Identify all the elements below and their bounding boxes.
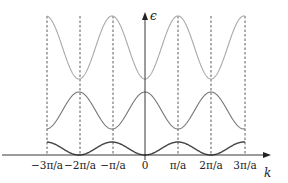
tick-label: −2π/a <box>64 159 96 171</box>
band-3-curve <box>47 16 245 79</box>
y-axis-label: ϵ <box>150 9 157 23</box>
x-axis-arrow-icon <box>263 152 271 158</box>
tick-label: 3π/a <box>233 159 256 171</box>
band-structure-diagram: ϵ k −3π/a −2π/a −π/a 0 π/a 2π/a 3π/a <box>0 0 288 183</box>
tick-label: −π/a <box>100 159 126 171</box>
x-tick-labels: −3π/a −2π/a −π/a 0 π/a 2π/a 3π/a <box>31 159 257 171</box>
y-axis-arrow-icon <box>142 12 148 20</box>
zone-boundaries <box>47 16 245 155</box>
band-1-curve <box>47 142 245 155</box>
band-2-curve <box>47 92 245 129</box>
x-axis-label: k <box>264 166 271 180</box>
tick-label: π/a <box>170 159 187 171</box>
tick-label: 2π/a <box>199 159 222 171</box>
tick-label: −3π/a <box>31 159 63 171</box>
tick-label: 0 <box>142 159 149 171</box>
